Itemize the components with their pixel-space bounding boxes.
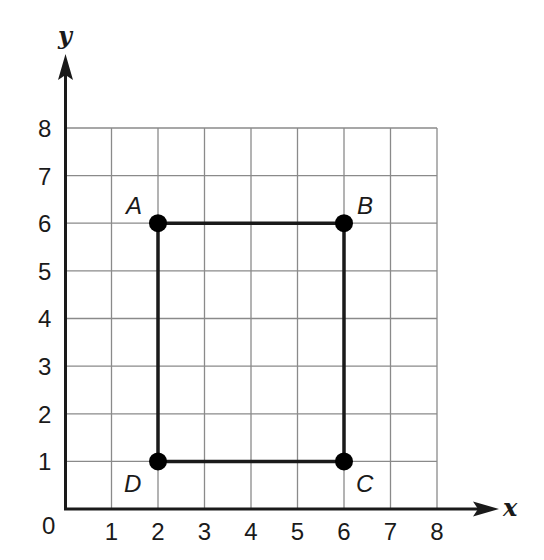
- vertex-a-point: [149, 214, 167, 232]
- y-axis: [58, 54, 73, 509]
- grid-lines: [65, 128, 437, 509]
- x-axis: [64, 502, 499, 517]
- y-tick-label: 1: [38, 448, 51, 475]
- x-tick-label: 4: [244, 518, 257, 545]
- x-tick-labels: 1 2 3 4 5 6 7 8: [105, 518, 444, 545]
- y-tick-label: 3: [38, 353, 51, 380]
- y-tick-label: 4: [38, 305, 51, 332]
- y-axis-label: y: [57, 21, 74, 50]
- vertex-a-label: A: [124, 192, 142, 219]
- y-tick-label: 5: [38, 258, 51, 285]
- coordinate-grid-figure: y x 8 7 6 5 4 3 2 1 0 1 2 3 4 5 6 7 8 A …: [0, 0, 544, 560]
- x-axis-label: x: [502, 493, 518, 522]
- y-tick-label: 2: [38, 401, 51, 428]
- vertex-d-point: [149, 452, 167, 470]
- y-tick-labels: 8 7 6 5 4 3 2 1: [38, 115, 51, 475]
- x-tick-label: 6: [337, 518, 350, 545]
- y-tick-label: 8: [38, 115, 51, 142]
- y-tick-label: 7: [38, 163, 51, 190]
- vertex-c-point: [335, 452, 353, 470]
- vertex-c-label: C: [356, 470, 374, 497]
- y-tick-label: 6: [38, 210, 51, 237]
- x-tick-label: 5: [291, 518, 304, 545]
- vertex-d-label: D: [124, 470, 141, 497]
- x-tick-label: 7: [384, 518, 397, 545]
- vertex-b-label: B: [357, 192, 373, 219]
- x-tick-label: 3: [198, 518, 211, 545]
- origin-label: 0: [42, 512, 55, 539]
- x-tick-label: 8: [430, 518, 443, 545]
- x-tick-label: 2: [151, 518, 164, 545]
- x-tick-label: 1: [105, 518, 118, 545]
- vertex-b-point: [335, 214, 353, 232]
